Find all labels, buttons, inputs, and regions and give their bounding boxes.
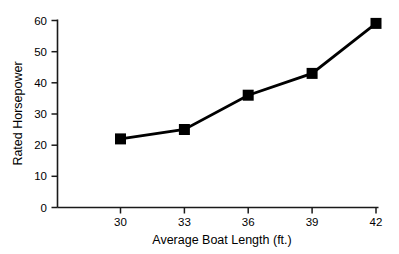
x-tick-label-36: 36 xyxy=(242,216,255,228)
y-tick-label-30: 30 xyxy=(34,108,47,120)
data-point-marker xyxy=(307,68,318,79)
data-point-marker xyxy=(179,124,190,135)
x-tick-label-39: 39 xyxy=(306,216,319,228)
x-axis-title: Average Boat Length (ft.) xyxy=(152,233,291,247)
y-tick-label-20: 20 xyxy=(34,139,47,151)
data-point-marker xyxy=(115,133,126,144)
y-tick-label-40: 40 xyxy=(34,77,47,89)
y-axis-title: Rated Horsepower xyxy=(11,61,25,165)
x-tick-label-33: 33 xyxy=(178,216,191,228)
y-tick-label-10: 10 xyxy=(34,170,47,182)
y-tick-label-60: 60 xyxy=(34,15,47,27)
x-tick-label-42: 42 xyxy=(370,216,383,228)
data-point-marker xyxy=(243,90,254,101)
x-tick-label-30: 30 xyxy=(114,216,127,228)
line-chart-figure: 0 10 20 30 40 50 60 30 33 36 39 42 xyxy=(0,0,399,254)
chart-background xyxy=(0,0,399,254)
chart-container: 0 10 20 30 40 50 60 30 33 36 39 42 xyxy=(0,0,399,254)
y-tick-label-0: 0 xyxy=(41,202,47,214)
y-tick-label-50: 50 xyxy=(34,46,47,58)
data-point-marker xyxy=(371,18,382,29)
